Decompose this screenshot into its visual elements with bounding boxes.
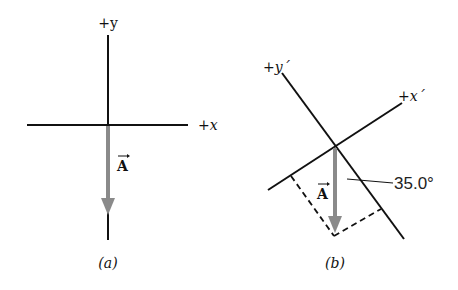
vector-arrow-over-b-tip-icon — [327, 182, 330, 186]
component-dashed-line-2 — [334, 209, 381, 236]
caption-a: (a) — [98, 255, 117, 271]
x-prime-axis-label: +x´ — [398, 88, 426, 104]
y-prime-axis-label: +y´ — [263, 59, 291, 75]
panel-b: 35.0° A +y´ +x´ (b) — [263, 59, 434, 271]
vector-b-arrowhead — [328, 216, 342, 233]
vector-arrow-over-tip-icon — [127, 154, 130, 158]
y-prime-axis — [282, 73, 404, 239]
angle-label: 35.0° — [394, 174, 434, 193]
caption-b: (b) — [325, 255, 345, 271]
vector-b-label: A — [316, 186, 329, 202]
vector-a-label: A — [116, 158, 129, 174]
x-axis-label: +x — [198, 117, 218, 133]
angle-leader-line — [347, 179, 393, 183]
panel-a: +y +x A (a) — [27, 15, 218, 271]
vector-diagram: +y +x A (a) 35.0° A +y´ +x´ (b) — [0, 0, 458, 290]
y-axis-label: +y — [98, 15, 118, 31]
vector-a-arrowhead — [101, 198, 115, 215]
